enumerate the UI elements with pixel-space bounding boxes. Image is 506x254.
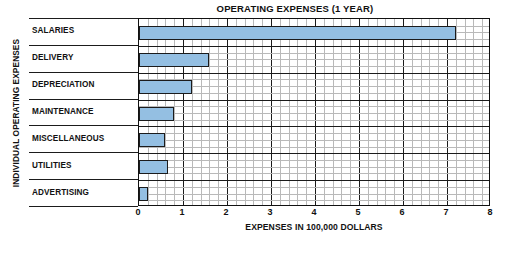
- gridline-vertical-minor: [289, 19, 290, 205]
- gridline-vertical-minor: [174, 19, 175, 205]
- gridline-horizontal-minor: [139, 194, 489, 195]
- bar-chart: OPERATING EXPENSES (1 YEAR) INDIVIDUAL O…: [0, 0, 506, 254]
- gridline-horizontal-minor: [139, 187, 489, 188]
- gridline-horizontal-minor: [139, 173, 489, 174]
- x-axis-title: EXPENSES IN 100,000 DOLLARS: [138, 222, 490, 232]
- category-rule: [29, 45, 138, 46]
- gridline-horizontal-major: [139, 153, 489, 154]
- gridline-vertical-minor: [421, 19, 422, 205]
- category-rule: [29, 179, 138, 180]
- gridline-horizontal-major: [139, 126, 489, 127]
- category-label-advertising: ADVERTISING: [32, 188, 89, 197]
- gridline-vertical-major: [271, 19, 272, 205]
- bar-depreciation: [139, 80, 192, 94]
- x-axis-tick-labels: 012345678: [138, 206, 490, 220]
- gridline-vertical-minor: [280, 19, 281, 205]
- gridline-vertical-minor: [262, 19, 263, 205]
- gridline-vertical-minor: [236, 19, 237, 205]
- gridline-vertical-minor: [482, 19, 483, 205]
- gridline-vertical-minor: [201, 19, 202, 205]
- gridline-vertical-minor: [429, 19, 430, 205]
- x-tick-8: 8: [480, 207, 500, 217]
- gridline-vertical-minor: [350, 19, 351, 205]
- bar-miscellaneous: [139, 133, 165, 147]
- gridline-horizontal-minor: [139, 147, 489, 148]
- bar-utilities: [139, 160, 168, 174]
- gridline-vertical-minor: [438, 19, 439, 205]
- gridline-vertical-minor: [412, 19, 413, 205]
- gridline-vertical-minor: [385, 19, 386, 205]
- x-tick-6: 6: [392, 207, 412, 217]
- category-label-column: SALARIESDELIVERYDEPRECIATIONMAINTENANCEM…: [24, 18, 138, 206]
- category-label-salaries: SALARIES: [32, 26, 74, 35]
- gridline-horizontal-major: [139, 100, 489, 101]
- gridline-horizontal-minor: [139, 167, 489, 168]
- gridline-vertical-minor: [465, 19, 466, 205]
- gridline-vertical-minor: [341, 19, 342, 205]
- x-tick-7: 7: [436, 207, 456, 217]
- gridline-horizontal-minor: [139, 133, 489, 134]
- gridline-horizontal-minor: [139, 106, 489, 107]
- gridline-horizontal-major: [139, 46, 489, 47]
- plot-area: [138, 18, 490, 206]
- category-label-depreciation: DEPRECIATION: [32, 80, 94, 89]
- gridline-vertical-minor: [324, 19, 325, 205]
- x-tick-2: 2: [216, 207, 236, 217]
- gridline-vertical-minor: [473, 19, 474, 205]
- gridline-vertical-major: [227, 19, 228, 205]
- gridline-horizontal-minor: [139, 140, 489, 141]
- gridline-horizontal-minor: [139, 120, 489, 121]
- chart-title: OPERATING EXPENSES (1 YEAR): [0, 3, 506, 14]
- category-rule: [29, 99, 138, 100]
- gridline-horizontal-minor: [139, 200, 489, 201]
- category-rule: [29, 72, 138, 73]
- gridline-vertical-major: [183, 19, 184, 205]
- category-label-miscellaneous: MISCELLANEOUS: [32, 134, 104, 143]
- bar-delivery: [139, 53, 209, 67]
- gridline-vertical-minor: [253, 19, 254, 205]
- category-rule: [29, 18, 138, 19]
- gridline-vertical-major: [359, 19, 360, 205]
- gridline-vertical-major: [403, 19, 404, 205]
- x-tick-5: 5: [348, 207, 368, 217]
- gridline-vertical-minor: [297, 19, 298, 205]
- grid-layer: [139, 19, 489, 205]
- gridline-vertical-minor: [456, 19, 457, 205]
- gridline-vertical-minor: [245, 19, 246, 205]
- gridline-vertical-minor: [209, 19, 210, 205]
- gridline-horizontal-minor: [139, 160, 489, 161]
- gridline-vertical-minor: [377, 19, 378, 205]
- gridline-vertical-minor: [394, 19, 395, 205]
- category-rule: [29, 206, 138, 207]
- gridline-vertical-minor: [368, 19, 369, 205]
- x-tick-3: 3: [260, 207, 280, 217]
- x-tick-1: 1: [172, 207, 192, 217]
- category-label-utilities: UTILITIES: [32, 161, 72, 170]
- gridline-vertical-minor: [306, 19, 307, 205]
- category-label-maintenance: MAINTENANCE: [32, 107, 94, 116]
- gridline-horizontal-major: [139, 180, 489, 181]
- x-tick-4: 4: [304, 207, 324, 217]
- gridline-vertical-minor: [333, 19, 334, 205]
- gridline-vertical-minor: [192, 19, 193, 205]
- bar-maintenance: [139, 107, 174, 121]
- y-axis-title: INDIVIDUAL OPERATING EXPENSES: [11, 13, 21, 213]
- x-tick-0: 0: [128, 207, 148, 217]
- bar-salaries: [139, 26, 456, 40]
- category-rule: [29, 125, 138, 126]
- gridline-vertical-major: [447, 19, 448, 205]
- bar-advertising: [139, 187, 148, 201]
- gridline-vertical-major: [315, 19, 316, 205]
- gridline-horizontal-major: [139, 73, 489, 74]
- gridline-horizontal-minor: [139, 113, 489, 114]
- category-rule: [29, 152, 138, 153]
- category-label-delivery: DELIVERY: [32, 53, 73, 62]
- gridline-vertical-minor: [218, 19, 219, 205]
